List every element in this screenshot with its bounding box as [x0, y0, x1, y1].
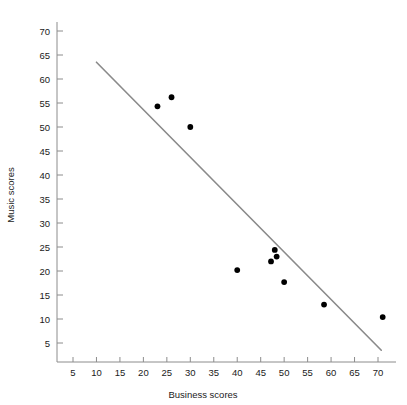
x-tick-label: 35 [208, 367, 219, 378]
x-tick-label: 10 [91, 367, 102, 378]
x-axis-title: Business scores [168, 389, 237, 400]
y-axis-title: Music scores [5, 167, 16, 223]
data-point [234, 267, 240, 273]
x-tick-label: 25 [162, 367, 173, 378]
y-tick-label: 15 [39, 290, 50, 301]
y-tick-label: 35 [39, 194, 50, 205]
y-tick-label: 10 [39, 314, 50, 325]
x-tick-label: 20 [138, 367, 149, 378]
y-tick-label: 40 [39, 170, 50, 181]
scatter-chart-figure: 510152025303540455055606570 510152025303… [0, 0, 407, 405]
data-point [274, 254, 280, 260]
y-tick-label: 30 [39, 218, 50, 229]
y-tick-label: 20 [39, 266, 50, 277]
data-point [169, 94, 175, 100]
y-tick-label: 55 [39, 98, 50, 109]
x-tick-label: 55 [302, 367, 313, 378]
data-point [321, 302, 327, 308]
x-tick-label: 30 [185, 367, 196, 378]
y-tick-label: 65 [39, 50, 50, 61]
y-tick-label: 25 [39, 242, 50, 253]
data-point [281, 279, 287, 285]
x-tick-label: 15 [115, 367, 126, 378]
y-tick-label: 70 [39, 26, 50, 37]
x-tick-label: 60 [326, 367, 337, 378]
data-point [155, 103, 161, 109]
x-axis-ticks: 510152025303540455055606570 [70, 357, 383, 378]
plot-area: 510152025303540455055606570 510152025303… [0, 0, 407, 405]
data-point [272, 247, 278, 253]
x-tick-label: 70 [373, 367, 384, 378]
trend-line-group [96, 62, 381, 350]
x-tick-label: 5 [70, 367, 75, 378]
y-tick-label: 50 [39, 122, 50, 133]
x-tick-label: 45 [255, 367, 266, 378]
trend-line [96, 62, 381, 350]
y-tick-label: 45 [39, 146, 50, 157]
data-point [268, 259, 274, 265]
y-axis-ticks: 510152025303540455055606570 [39, 26, 63, 349]
x-tick-label: 50 [279, 367, 290, 378]
y-tick-label: 60 [39, 74, 50, 85]
x-tick-label: 40 [232, 367, 243, 378]
data-point [187, 124, 193, 130]
data-point [380, 314, 386, 320]
x-tick-label: 65 [349, 367, 360, 378]
data-points-group [155, 94, 386, 320]
y-tick-label: 5 [45, 338, 50, 349]
